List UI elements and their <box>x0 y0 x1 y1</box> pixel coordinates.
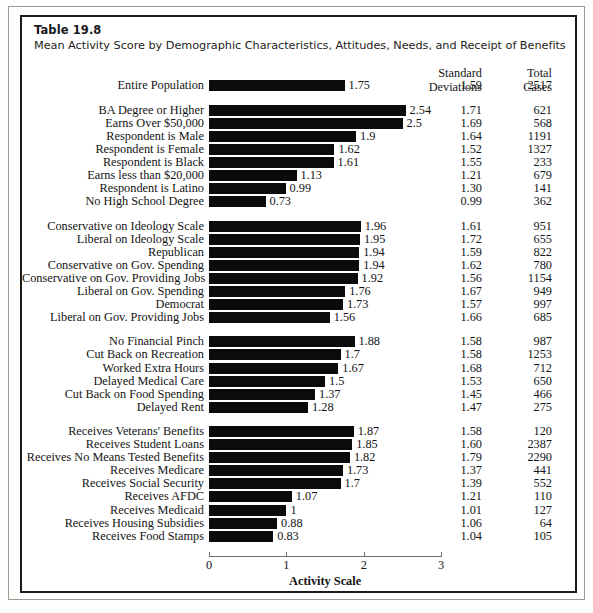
bar-value-label: 1.5 <box>329 375 344 388</box>
bar <box>209 131 356 142</box>
bar <box>209 221 361 232</box>
cell-total-cases: 780 <box>488 259 552 272</box>
cell-standard-deviation: 1.37 <box>390 464 482 477</box>
row-label: Delayed Rent <box>22 401 204 414</box>
cell-standard-deviation: 1.57 <box>390 298 482 311</box>
cell-standard-deviation: 1.68 <box>390 362 482 375</box>
bar-value-label: 1.56 <box>334 311 356 324</box>
bar <box>209 299 343 310</box>
bar <box>209 363 338 374</box>
cell-total-cases: 1327 <box>488 143 552 156</box>
cell-standard-deviation: 1.04 <box>390 530 482 543</box>
row-label: BA Degree or Higher <box>22 104 204 117</box>
bar <box>209 170 297 181</box>
cell-total-cases: 621 <box>488 104 552 117</box>
row-label: Receives Medicare <box>22 464 204 477</box>
bar-value-label: 1 <box>290 504 296 517</box>
x-axis-tick-label: 1 <box>276 558 296 573</box>
bar <box>209 157 334 168</box>
row-label: Cut Back on Recreation <box>22 348 204 361</box>
cell-standard-deviation: 1.47 <box>390 401 482 414</box>
bar <box>209 118 403 129</box>
cell-total-cases: 997 <box>488 298 552 311</box>
table-row: Receives Student Loans1.851.602387 <box>22 438 575 451</box>
row-label: Liberal on Gov. Providing Jobs <box>22 311 204 324</box>
x-axis-tick <box>441 552 442 557</box>
row-label: Conservative on Gov. Providing Jobs <box>22 272 204 285</box>
table-row: Receives No Means Tested Benefits1.821.7… <box>22 451 575 464</box>
bar-value-label: 1.61 <box>338 156 360 169</box>
cell-standard-deviation: 1.66 <box>390 311 482 324</box>
table-row: Republican1.941.59822 <box>22 246 575 259</box>
x-axis-tick-label: 3 <box>431 558 451 573</box>
table-row: Liberal on Gov. Spending1.761.67949 <box>22 285 575 298</box>
row-label: Receives Housing Subsidies <box>22 517 204 530</box>
cell-standard-deviation: 1.67 <box>390 285 482 298</box>
cell-standard-deviation: 1.59 <box>390 79 482 92</box>
bar <box>209 273 358 284</box>
cell-standard-deviation: 1.45 <box>390 388 482 401</box>
bar-value-label: 1.7 <box>345 348 360 361</box>
x-axis-tick-label: 2 <box>354 558 374 573</box>
bar <box>209 426 354 437</box>
bar-value-label: 1.95 <box>364 233 386 246</box>
cell-standard-deviation: 1.53 <box>390 375 482 388</box>
cell-standard-deviation: 1.21 <box>390 490 482 503</box>
x-axis-title: Activity Scale <box>209 574 441 589</box>
x-axis-tick <box>364 552 365 557</box>
bar <box>209 465 343 476</box>
cell-total-cases: 655 <box>488 233 552 246</box>
bar-value-label: 1.94 <box>363 246 385 259</box>
cell-standard-deviation: 1.06 <box>390 517 482 530</box>
cell-total-cases: 141 <box>488 182 552 195</box>
bar <box>209 349 341 360</box>
cell-standard-deviation: 1.56 <box>390 272 482 285</box>
table-row: Earns Over $50,0002.51.69568 <box>22 117 575 130</box>
table-row: Earns less than $20,0001.131.21679 <box>22 169 575 182</box>
cell-standard-deviation: 1.30 <box>390 182 482 195</box>
bar-value-label: 1.94 <box>363 259 385 272</box>
row-label: Receives Food Stamps <box>22 530 204 543</box>
cell-total-cases: 685 <box>488 311 552 324</box>
x-axis-tick-label: 0 <box>199 558 219 573</box>
bar-value-label: 0.88 <box>281 517 303 530</box>
bar <box>209 389 315 400</box>
bar-value-label: 1.88 <box>359 335 381 348</box>
row-label: Receives AFDC <box>22 490 204 503</box>
cell-total-cases: 568 <box>488 117 552 130</box>
table-row: BA Degree or Higher2.541.71621 <box>22 104 575 117</box>
bar <box>209 531 273 542</box>
bar <box>209 80 345 91</box>
bar <box>209 312 330 323</box>
table-row: Liberal on Gov. Providing Jobs1.561.6668… <box>22 311 575 324</box>
bar-value-label: 1.62 <box>338 143 360 156</box>
bar-value-label: 1.73 <box>347 464 369 477</box>
table-row: Conservative on Gov. Spending1.941.62780 <box>22 259 575 272</box>
cell-total-cases: 127 <box>488 504 552 517</box>
cell-total-cases: 275 <box>488 401 552 414</box>
table-row: Cut Back on Recreation1.71.581253 <box>22 348 575 361</box>
bar-value-label: 1.76 <box>349 285 371 298</box>
cell-standard-deviation: 1.64 <box>390 130 482 143</box>
bar <box>209 196 266 207</box>
table-row: Receives Food Stamps0.831.04105 <box>22 530 575 543</box>
row-label: No High School Degree <box>22 195 204 208</box>
x-axis-line <box>209 556 441 557</box>
table-figure-page: Table 19.8 Mean Activity Score by Demogr… <box>0 0 593 613</box>
cell-total-cases: 233 <box>488 156 552 169</box>
bar <box>209 105 406 116</box>
row-label: Republican <box>22 246 204 259</box>
cell-total-cases: 650 <box>488 375 552 388</box>
cell-total-cases: 951 <box>488 220 552 233</box>
cell-total-cases: 466 <box>488 388 552 401</box>
table-row: Conservative on Gov. Providing Jobs1.921… <box>22 272 575 285</box>
bar <box>209 260 359 271</box>
bar <box>209 144 334 155</box>
table-row: Respondent is Latino0.991.30141 <box>22 182 575 195</box>
row-label: Earns Over $50,000 <box>22 117 204 130</box>
table-row: Respondent is Male1.91.641191 <box>22 130 575 143</box>
cell-total-cases: 105 <box>488 530 552 543</box>
bar-chart-plot-area: Activity Scale Entire Population1.751.59… <box>22 17 575 591</box>
bar <box>209 505 286 516</box>
row-label: Entire Population <box>22 79 204 92</box>
